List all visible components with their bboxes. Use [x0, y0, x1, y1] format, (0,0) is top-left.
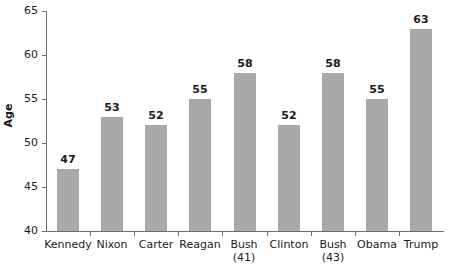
y-tick-mark: [42, 11, 46, 12]
bar-value-label: 63: [401, 14, 441, 25]
bar-chart: Age 656055504540 475352555852585563 Kenn…: [0, 0, 456, 274]
x-axis-category-label: Trump: [395, 238, 447, 251]
bar: [322, 73, 344, 231]
x-axis-category-line: Trump: [404, 238, 438, 251]
y-axis-line: [46, 11, 47, 232]
bar-value-label: 55: [357, 84, 397, 95]
bar: [278, 125, 300, 231]
bar-value-label: 52: [269, 110, 309, 121]
bar-value-label: 47: [48, 154, 88, 165]
x-axis-category-line: Bush: [319, 238, 346, 251]
bar: [234, 73, 256, 231]
y-tick-label: 60: [4, 49, 38, 60]
y-tick-mark: [42, 231, 46, 232]
x-axis-line: [46, 231, 444, 232]
x-tick-mark: [399, 232, 400, 236]
y-tick-label: 55: [4, 93, 38, 104]
bar: [101, 117, 123, 231]
bar: [410, 29, 432, 231]
x-tick-mark: [222, 232, 223, 236]
x-axis-category-line: Obama: [357, 238, 397, 251]
y-tick-label: 45: [4, 181, 38, 192]
x-axis-category-line: Kennedy: [44, 238, 92, 251]
bar-value-label: 58: [225, 58, 265, 69]
y-tick-label: 40: [4, 225, 38, 236]
x-axis-category-line: Nixon: [96, 238, 127, 251]
x-tick-mark: [355, 232, 356, 236]
x-axis-category-line: Reagan: [179, 238, 220, 251]
x-axis-category-line: (43): [307, 251, 359, 264]
bar: [366, 99, 388, 231]
y-tick-mark: [42, 187, 46, 188]
x-tick-mark: [267, 232, 268, 236]
y-tick-label: 50: [4, 137, 38, 148]
bar-value-label: 55: [180, 84, 220, 95]
x-tick-mark: [178, 232, 179, 236]
bar-value-label: 52: [136, 110, 176, 121]
x-tick-mark: [90, 232, 91, 236]
x-tick-mark: [311, 232, 312, 236]
x-axis-category-line: Bush: [230, 238, 257, 251]
x-tick-mark: [134, 232, 135, 236]
y-tick-mark: [42, 55, 46, 56]
bar: [145, 125, 167, 231]
y-axis-title-text: Age: [3, 104, 16, 128]
x-axis-category-line: Carter: [139, 238, 174, 251]
bar: [57, 169, 79, 231]
y-tick-mark: [42, 143, 46, 144]
y-axis-title: Age: [0, 0, 18, 231]
y-tick-mark: [42, 99, 46, 100]
x-axis-category-line: (41): [218, 251, 270, 264]
bar-value-label: 58: [313, 58, 353, 69]
bar-value-label: 53: [92, 102, 132, 113]
x-axis-category-line: Clinton: [270, 238, 309, 251]
bar: [189, 99, 211, 231]
y-tick-label: 65: [4, 5, 38, 16]
